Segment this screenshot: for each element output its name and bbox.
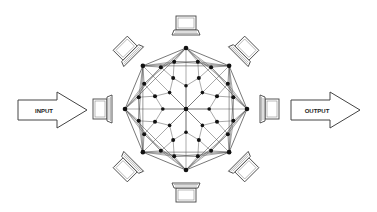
network-node	[184, 84, 188, 88]
network-node	[141, 150, 146, 155]
laptop-icon	[228, 33, 261, 66]
network-node	[153, 120, 157, 124]
network-node	[201, 91, 205, 95]
network-node	[196, 154, 200, 158]
network-node	[184, 130, 188, 134]
input-label: INPUT	[35, 108, 53, 114]
network-node	[245, 107, 250, 112]
laptop-icon	[228, 151, 261, 184]
laptop-icon	[260, 95, 279, 123]
network-node	[227, 64, 232, 69]
output-arrow: OUTPUT	[291, 92, 360, 128]
network-node	[226, 82, 230, 86]
network-node	[161, 107, 165, 111]
laptop-icon	[110, 33, 143, 66]
network-node	[184, 107, 189, 112]
network-node	[159, 149, 163, 153]
network-node	[196, 60, 200, 64]
input-arrow: INPUT	[18, 92, 87, 128]
network-node	[137, 119, 141, 123]
network-node	[184, 46, 189, 51]
network-diagram: INPUT OUTPUT	[0, 0, 377, 212]
network-node	[201, 124, 205, 128]
output-label: OUTPUT	[305, 108, 330, 114]
network-node	[227, 150, 232, 155]
network-node	[141, 64, 146, 69]
network-node	[172, 154, 176, 158]
network-node	[215, 94, 219, 98]
network-node	[123, 107, 128, 112]
network-node	[231, 95, 235, 99]
network-node	[209, 65, 213, 69]
network-node	[171, 138, 175, 142]
network-node	[209, 149, 213, 153]
network-node	[226, 132, 230, 136]
network-node	[168, 91, 172, 95]
laptop-icon	[93, 95, 112, 123]
diagram-canvas: INPUT OUTPUT	[0, 0, 377, 212]
network-node	[142, 132, 146, 136]
network-node	[153, 94, 157, 98]
network-node	[137, 95, 141, 99]
laptop-icon	[172, 16, 200, 35]
network-node	[184, 168, 189, 173]
laptop-icon	[172, 183, 200, 202]
network-node	[159, 65, 163, 69]
network-node	[207, 107, 211, 111]
network-node	[168, 124, 172, 128]
network-node	[171, 76, 175, 80]
network-node	[142, 82, 146, 86]
network-node	[172, 60, 176, 64]
network-node	[197, 76, 201, 80]
network-node	[215, 120, 219, 124]
network-node	[197, 138, 201, 142]
laptop-icon	[110, 151, 143, 184]
network-node	[231, 119, 235, 123]
